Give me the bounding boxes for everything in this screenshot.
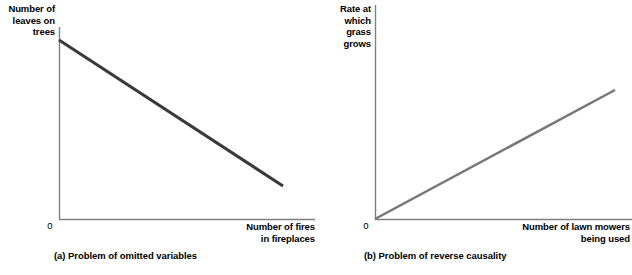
chart-panel-a: Number of leaves on trees Number of fire… [0, 0, 316, 275]
x-axis-label-a: Number of fires in fireplaces [180, 221, 315, 244]
caption-panel-a: (a) Problem of omitted variables [54, 250, 197, 261]
y-axis-label-a: Number of leaves on trees [0, 3, 55, 38]
x-axis-label-b: Number of lawn mowers being used [491, 221, 630, 244]
chart-panel-b: Rate at which grass grows Number of lawn… [316, 0, 632, 275]
origin-tick-label-a: 0 [44, 220, 56, 231]
data-line-a-negative-relationship [59, 40, 283, 186]
caption-panel-b: (b) Problem of reverse causality [364, 250, 507, 261]
origin-tick-label-b: 0 [360, 220, 372, 231]
y-axis-label-b: Rate at which grass grows [316, 3, 371, 49]
data-line-b-positive-relationship [375, 90, 615, 219]
figure-two-panel-causality-diagrams: Number of leaves on trees Number of fire… [0, 0, 632, 275]
